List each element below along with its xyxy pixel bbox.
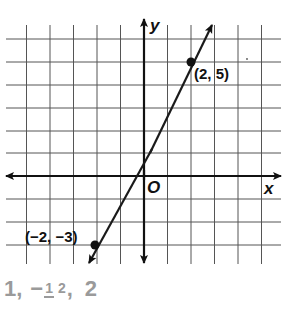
stray-dot: [246, 58, 248, 60]
origin-label: O: [147, 178, 160, 197]
answer-minus: −: [30, 276, 43, 302]
point-label-neg2-neg3: (−2, −3): [25, 228, 78, 245]
point-label-2-5: (2, 5): [194, 65, 229, 82]
fraction-denominator: 2: [58, 280, 66, 295]
coordinate-graph: y x O (2, 5) (−2, −3): [0, 0, 283, 316]
fraction-numerator: 1: [44, 281, 54, 298]
answer-part-1: 1,: [4, 276, 22, 302]
answer-fraction: 1 2: [44, 280, 65, 298]
x-axis-label: x: [263, 179, 275, 198]
answer-text: 1, − 1 2 , 2: [4, 276, 97, 302]
answer-part-3: 2: [85, 276, 97, 302]
y-axis-label: y: [149, 16, 161, 35]
answer-comma: ,: [67, 276, 73, 302]
point-neg2-neg3: [91, 241, 100, 250]
graph-line: [150, 25, 212, 153]
